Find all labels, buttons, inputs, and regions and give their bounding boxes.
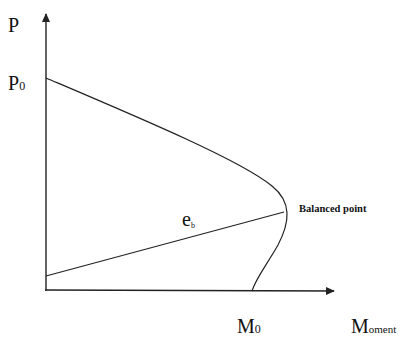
diagram-canvas — [0, 0, 401, 343]
x-axis-label: Moment — [351, 315, 396, 338]
y-axis-label: P — [8, 14, 19, 37]
balanced-point-label: Balanced point — [299, 203, 366, 214]
eb-line — [46, 212, 284, 276]
p0-label: P0 — [8, 72, 25, 95]
x-axis — [45, 290, 334, 291]
eb-label: eb — [182, 208, 195, 231]
m0-label: M0 — [237, 315, 261, 338]
interaction-curve — [46, 78, 287, 291]
